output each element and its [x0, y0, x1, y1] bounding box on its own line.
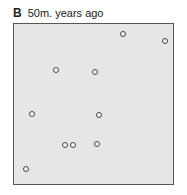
circle-marker-icon [92, 69, 98, 75]
figure-title: B50m. years ago [13, 6, 104, 20]
circle-marker-icon [94, 141, 100, 147]
circle-marker-icon [162, 38, 168, 44]
circle-marker-icon [120, 31, 126, 37]
panel-letter: B [13, 6, 22, 20]
circle-marker-icon [23, 166, 29, 172]
circle-marker-icon [29, 111, 35, 117]
circle-marker-icon [96, 112, 102, 118]
stippled-panel [13, 23, 174, 185]
panel-caption: 50m. years ago [28, 7, 104, 19]
circle-marker-icon [62, 142, 68, 148]
circle-marker-icon [53, 67, 59, 73]
circle-marker-icon [70, 142, 76, 148]
